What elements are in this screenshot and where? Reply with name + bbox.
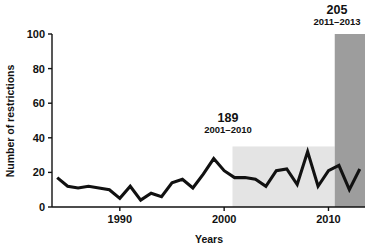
y-tick-label: 60	[33, 97, 45, 109]
chart-svg: 020406080100 199020002010 Number of rest…	[0, 0, 379, 249]
x-axis-tick-labels: 199020002010	[108, 213, 341, 225]
y-axis-title: Number of restrictions	[4, 65, 16, 178]
annotation-205-years: 2011–2013	[313, 16, 360, 27]
x-tick-label: 2000	[212, 213, 236, 225]
annotation-205: 205 2011–2013	[313, 3, 360, 27]
y-axis-tick-labels: 020406080100	[27, 28, 45, 213]
x-tick-label: 2010	[316, 213, 340, 225]
x-tick-label: 1990	[108, 213, 132, 225]
restrictions-line-chart: 020406080100 199020002010 Number of rest…	[0, 0, 379, 249]
annotation-189-number: 189	[218, 111, 239, 125]
y-tick-label: 80	[33, 63, 45, 75]
chart-canvas: 020406080100 199020002010 Number of rest…	[0, 0, 379, 249]
region-2011-2013	[335, 34, 365, 207]
annotation-205-number: 205	[327, 3, 348, 17]
y-tick-label: 40	[33, 132, 45, 144]
annotation-189-years: 2001–2010	[204, 124, 252, 135]
y-tick-label: 100	[27, 28, 45, 40]
y-tick-label: 20	[33, 166, 45, 178]
y-tick-label: 0	[39, 201, 45, 213]
x-axis-title: Years	[195, 233, 223, 245]
annotation-189: 189 2001–2010	[204, 111, 252, 135]
